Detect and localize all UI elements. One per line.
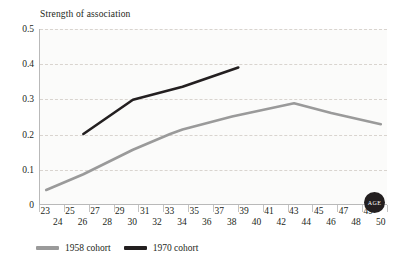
x-tick-label: 26: [74, 217, 92, 227]
x-tick-label: 33: [161, 206, 179, 216]
x-axis: 2325272931333537394143454749242628303234…: [39, 206, 387, 232]
legend-label: 1970 cohort: [153, 243, 199, 253]
y-tick-label: 0.3: [0, 94, 34, 104]
x-tick-label: 39: [235, 206, 253, 216]
x-tick-label: 35: [185, 206, 203, 216]
x-tick-label: 47: [335, 206, 353, 216]
y-axis: 0.50.40.30.20.10: [0, 29, 34, 205]
x-tick-label: 29: [111, 206, 129, 216]
x-tick-label: 32: [148, 217, 166, 227]
legend-item: 1970 cohort: [124, 243, 199, 253]
x-tick-label: 40: [248, 217, 266, 227]
x-tick-label: 45: [310, 206, 328, 216]
legend-item: 1958 cohort: [36, 243, 111, 253]
x-tick-label: 48: [347, 217, 365, 227]
x-tick-label: 46: [322, 217, 340, 227]
x-tick-label: 31: [136, 206, 154, 216]
x-tick-mark: [387, 205, 388, 212]
y-tick-label: 0.4: [0, 59, 34, 69]
x-tick-label: 27: [86, 206, 104, 216]
y-tick-label: 0.5: [0, 24, 34, 34]
x-tick-label: 38: [223, 217, 241, 227]
legend-swatch: [124, 246, 147, 250]
x-tick-label: 28: [98, 217, 116, 227]
x-tick-label: 23: [36, 206, 54, 216]
x-tick-label: 34: [173, 217, 191, 227]
legend-label: 1958 cohort: [65, 243, 111, 253]
y-tick-label: 0.1: [0, 165, 34, 175]
x-tick-label: 41: [260, 206, 278, 216]
x-tick-label: 42: [272, 217, 290, 227]
chart-figure: Strength of association 0.50.40.30.20.10…: [0, 0, 397, 266]
y-tick-label: 0: [0, 200, 34, 210]
x-tick-label: 36: [198, 217, 216, 227]
x-tick-label: 24: [49, 217, 67, 227]
series-line: [46, 103, 381, 190]
x-tick-label: 43: [285, 206, 303, 216]
series-layer: [40, 29, 387, 204]
x-tick-label: 30: [123, 217, 141, 227]
chart-title: Strength of association: [40, 9, 131, 19]
age-axis-badge: AGE: [364, 192, 385, 213]
y-tick-label: 0.2: [0, 130, 34, 140]
plot-area: [39, 29, 387, 205]
x-tick-label: 37: [210, 206, 228, 216]
legend-swatch: [36, 246, 59, 250]
x-tick-label: 25: [61, 206, 79, 216]
series-line: [83, 68, 238, 135]
chart-legend: 1958 cohort1970 cohort: [36, 243, 198, 253]
x-tick-label: 44: [297, 217, 315, 227]
x-tick-label: 50: [372, 217, 390, 227]
